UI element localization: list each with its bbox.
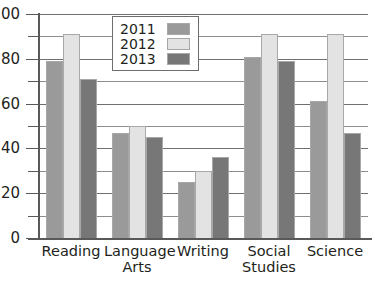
legend-swatch (167, 53, 190, 65)
tick-mark-10 (28, 216, 38, 217)
bar (146, 137, 163, 238)
bar (261, 34, 278, 238)
category-label: Social Studies (236, 243, 302, 275)
tick-mark-40 (26, 148, 38, 149)
bar-group (302, 14, 368, 238)
legend-label: 2012 (120, 37, 158, 51)
tick-mark-30 (28, 171, 38, 172)
plot-area (38, 14, 368, 238)
category-label: Science (302, 243, 368, 259)
bar (112, 133, 129, 238)
y-axis-line (38, 13, 40, 239)
bar-chart: 020406080100 ReadingLanguage ArtsWriting… (0, 0, 375, 282)
y-tick-label: 80 (0, 50, 20, 68)
y-tick-label: 60 (0, 95, 20, 113)
bar (212, 157, 229, 238)
tick-mark-0 (26, 238, 38, 239)
bar (46, 61, 63, 238)
bar (310, 101, 327, 238)
bar (327, 34, 344, 238)
y-tick-label: 20 (0, 184, 20, 202)
legend-item: 2012 (120, 36, 190, 51)
bar (80, 79, 97, 238)
legend-label: 2011 (120, 22, 158, 36)
bar-group (236, 14, 302, 238)
tick-mark-20 (26, 193, 38, 194)
category-label: Language Arts (104, 243, 170, 275)
bar (244, 57, 261, 238)
y-tick-label: 0 (0, 229, 20, 247)
tick-mark-90 (28, 36, 38, 37)
y-tick-label: 40 (0, 139, 20, 157)
bar (178, 182, 195, 238)
legend-label: 2013 (120, 52, 158, 66)
legend-swatch (167, 23, 190, 35)
tick-mark-50 (28, 126, 38, 127)
category-label: Writing (170, 243, 236, 259)
tick-mark-100 (26, 14, 38, 15)
legend-item: 2011 (120, 21, 190, 36)
tick-mark-70 (28, 81, 38, 82)
legend-swatch (167, 38, 190, 50)
bar (195, 171, 212, 238)
tick-mark-60 (26, 104, 38, 105)
x-axis-line (28, 238, 372, 240)
bar (129, 126, 146, 238)
bar (278, 61, 295, 238)
category-label: Reading (38, 243, 104, 259)
tick-mark-80 (26, 59, 38, 60)
legend: 201120122013 (112, 16, 199, 71)
bar-group (38, 14, 104, 238)
bar (63, 34, 80, 238)
legend-item: 2013 (120, 51, 190, 66)
y-tick-label: 100 (0, 5, 20, 23)
bar (344, 133, 361, 238)
